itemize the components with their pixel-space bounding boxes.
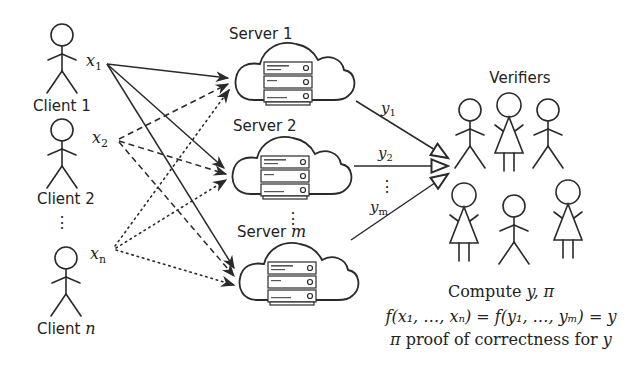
- server-1: Server 1: [229, 25, 354, 105]
- client-2-edges: [119, 84, 234, 276]
- edge-x1-serverm: [107, 64, 234, 268]
- client-n: Client n xn: [37, 244, 106, 338]
- edge-serverm-verifiers: [351, 174, 448, 240]
- server-to-verifier-edges: y1 y2 ⋮ ym: [351, 99, 448, 240]
- output-y1: y1: [380, 99, 396, 118]
- client-1-input: x1: [86, 51, 102, 73]
- verifier-4-person-icon: [450, 183, 478, 261]
- verifier-6-person-icon: [554, 180, 582, 258]
- server-1-cloud-icon: [236, 43, 355, 105]
- client-n-input: xn: [90, 244, 106, 266]
- server-m-label: Server m: [237, 222, 306, 241]
- server-2: Server 2: [233, 117, 352, 199]
- server-1-label: Server 1: [229, 25, 293, 43]
- distributed-verification-diagram: Client 1 x1 Client 2 x2 ⋮ Client n xn Se…: [0, 0, 636, 368]
- client-n-person-icon: [51, 247, 81, 316]
- output-ym: ym: [369, 198, 388, 217]
- server-m-cloud-icon: [240, 243, 359, 305]
- client-1-edges: [107, 64, 234, 268]
- edge-xn-server2: [116, 180, 226, 248]
- output-ellipsis: ⋮: [379, 177, 395, 196]
- verifier-1-person-icon: [455, 99, 485, 168]
- verifier-2-person-icon: [495, 93, 523, 171]
- edge-x2-server1: [119, 84, 228, 139]
- edge-server1-verifiers: [356, 101, 448, 158]
- caption-line-proof: π proof of correctness for y: [389, 330, 613, 349]
- client-2-input: x2: [92, 128, 108, 150]
- server-m: Server m: [237, 222, 358, 305]
- client-n-label: Client n: [37, 319, 96, 338]
- server-2-label: Server 2: [233, 117, 297, 135]
- server-2-cloud-icon: [233, 137, 352, 199]
- verifiers-label: Verifiers: [489, 69, 551, 87]
- output-y2: y2: [377, 144, 393, 163]
- verifier-5-person-icon: [499, 195, 529, 264]
- client-2: Client 2 x2: [37, 119, 108, 208]
- client-1-person-icon: [47, 24, 77, 93]
- verifier-3-person-icon: [533, 99, 563, 168]
- verifiers-group: Verifiers: [450, 69, 582, 264]
- client-2-label: Client 2: [37, 190, 95, 208]
- caption: Compute y, π f(x₁, …, xₙ) = f(y₁, …, yₘ)…: [385, 282, 618, 349]
- client-ellipsis: ⋮: [54, 213, 70, 232]
- caption-line-compute: Compute y, π: [448, 282, 555, 301]
- edge-x1-server1: [107, 64, 228, 78]
- client-n-edges: [115, 90, 234, 285]
- edge-xn-serverm: [116, 250, 234, 285]
- client-2-person-icon: [47, 119, 77, 188]
- client-1-label: Client 1: [33, 97, 91, 115]
- client-1: Client 1 x1: [33, 24, 102, 115]
- caption-line-equation: f(x₁, …, xₙ) = f(y₁, …, yₘ) = y: [385, 307, 618, 326]
